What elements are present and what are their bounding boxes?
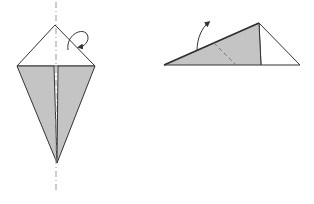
kite-fold-step	[17, 2, 95, 192]
kite-left-colored-flap	[17, 66, 57, 163]
kite-right-colored-flap	[57, 66, 95, 163]
white-flap-triangle	[259, 23, 300, 65]
origami-diagram	[0, 0, 314, 204]
folded-half-step	[164, 23, 300, 65]
